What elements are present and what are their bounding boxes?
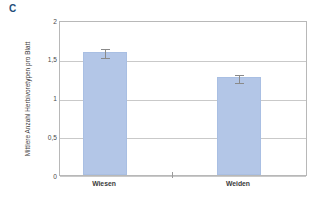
y-tick-label: 2 [37,18,57,25]
error-bar-weiden [239,75,240,83]
error-bar-cap-upper [235,75,244,76]
plot-area [59,21,307,176]
bar-wiesen [83,52,127,175]
y-tick-label: 0,5 [37,134,57,141]
error-bar-cap-upper [101,49,110,50]
y-axis-tick-labels: 00,511,52 [35,0,57,200]
x-tick-label-wiesen: Wiesen [74,180,134,188]
gridline [60,176,306,177]
y-tick-label: 1,5 [37,56,57,63]
y-tick-label: 1 [37,95,57,102]
bar-weiden [217,77,261,175]
x-tick-label-weiden: Weiden [208,180,268,188]
error-bar-wiesen [105,49,106,58]
y-tick-label: 0 [37,173,57,180]
baseline-mid-tick [172,172,173,178]
figure-panel-c: C Mittlere Anzahl Herbivoretypen pro Bla… [0,0,317,200]
error-bar-cap-lower [101,58,110,59]
error-bar-cap-lower [235,83,244,84]
y-axis-title-container: Mittlere Anzahl Herbivoretypen pro Blatt [20,20,34,178]
panel-letter: C [9,3,16,14]
y-axis-title: Mittlere Anzahl Herbivoretypen pro Blatt [24,42,31,157]
